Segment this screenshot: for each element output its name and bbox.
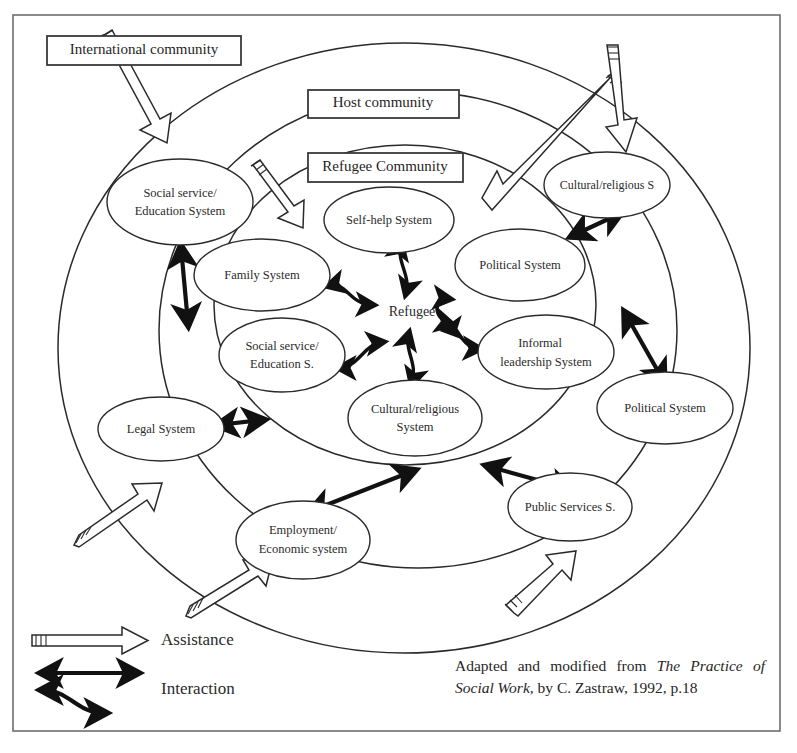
node-refugee-cultural-line1: Cultural/religious (371, 402, 459, 416)
credit-part1: Adapted and modified from (455, 657, 657, 674)
systems-diagram: Social service/ Education System Legal S… (0, 0, 797, 753)
assistance-arrow-bottom-right (505, 551, 576, 616)
legend-interaction: Interaction (42, 673, 235, 713)
node-host-public-services-label: Public Services S. (525, 500, 616, 514)
diagram-canvas: Social service/ Education System Legal S… (0, 0, 797, 753)
label-box-international-community: International community (47, 36, 241, 65)
node-intl-legal-system[interactable]: Legal System (98, 397, 224, 461)
node-refugee-self-help-system[interactable]: Self-help System (324, 187, 454, 253)
node-refugee-self-help-label: Self-help System (346, 213, 432, 227)
node-intl-employment-line2: Economic system (259, 542, 348, 556)
interaction-refugee-political (437, 299, 451, 324)
node-refugee-informal-leadership-system[interactable]: Informal leadership System (478, 315, 614, 389)
node-intl-social-service-line2: Education System (135, 204, 226, 218)
node-refugee-family-system[interactable]: Family System (194, 239, 330, 311)
node-host-cultural-religious-system[interactable]: Cultural/religious S (544, 152, 670, 218)
node-intl-employment-economic-system[interactable]: Employment/ Economic system (236, 501, 370, 579)
node-intl-social-service-education-system[interactable]: Social service/ Education System (107, 159, 253, 245)
label-international-community: International community (70, 41, 219, 57)
node-refugee-family-label: Family System (224, 268, 300, 282)
label-box-refugee-community: Refugee Community (308, 153, 463, 182)
legend-assistance: Assistance (32, 627, 234, 654)
node-refugee-political-system[interactable]: Political System (455, 229, 585, 301)
node-host-public-services-system[interactable]: Public Services S. (508, 473, 632, 541)
interaction-refugee-informal-leadership (447, 330, 480, 349)
source-credit: Adapted and modified from The Practice o… (455, 655, 765, 699)
legend-assistance-label: Assistance (161, 630, 234, 649)
legend-interaction-wavy-icon (42, 690, 104, 713)
node-refugee-informal-line1: Informal (518, 336, 562, 350)
credit-part2: by C. Zastraw, 1992, p.18 (534, 679, 698, 696)
legend-assistance-icon (32, 627, 148, 654)
node-host-political-label: Political System (624, 401, 706, 415)
node-refugee-social-service-line1: Social service/ (245, 339, 319, 353)
assistance-arrow-top-right (606, 45, 637, 152)
node-refugee-social-service-line2: Education S. (250, 357, 314, 371)
node-refugee-political-label: Political System (479, 258, 561, 272)
node-refugee-cultural-religious-system[interactable]: Cultural/religious System (348, 380, 482, 456)
assistance-arrow-lower-left (74, 483, 162, 547)
node-refugee-social-service-education-system[interactable]: Social service/ Education S. (219, 318, 345, 392)
node-refugee-informal-line2: leadership System (500, 355, 592, 369)
assistance-arrow-upper-left-inner (251, 160, 304, 228)
interaction-legal-system (218, 420, 262, 425)
label-host-community: Host community (333, 94, 434, 110)
interaction-refugee-cultural (408, 333, 414, 383)
interaction-refugee-family (328, 285, 372, 305)
node-host-political-system[interactable]: Political System (597, 372, 733, 444)
label-box-host-community: Host community (308, 90, 459, 118)
node-refugee-cultural-line2: System (397, 420, 434, 434)
center-label-refugee: Refugee (389, 304, 436, 319)
interaction-political-system-outer (625, 313, 663, 380)
legend-interaction-label: Interaction (161, 679, 235, 698)
node-intl-social-service-line1: Social service/ (143, 186, 217, 200)
node-intl-employment-line1: Employment/ (269, 523, 338, 537)
node-host-cultural-label: Cultural/religious S (560, 178, 654, 192)
label-refugee-community: Refugee Community (322, 158, 448, 174)
node-intl-legal-system-label: Legal System (127, 422, 196, 436)
interaction-social-service-vertical (181, 247, 188, 323)
